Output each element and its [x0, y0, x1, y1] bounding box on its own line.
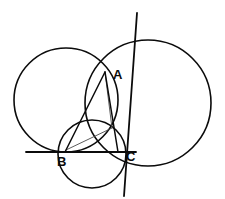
figure-background: [0, 0, 225, 199]
point-label-C: C: [126, 149, 136, 164]
geometry-figure-container: A B C: [0, 0, 225, 199]
geometry-figure-svg: A B C: [0, 0, 225, 199]
point-label-B: B: [57, 154, 66, 169]
point-label-A: A: [113, 67, 123, 82]
